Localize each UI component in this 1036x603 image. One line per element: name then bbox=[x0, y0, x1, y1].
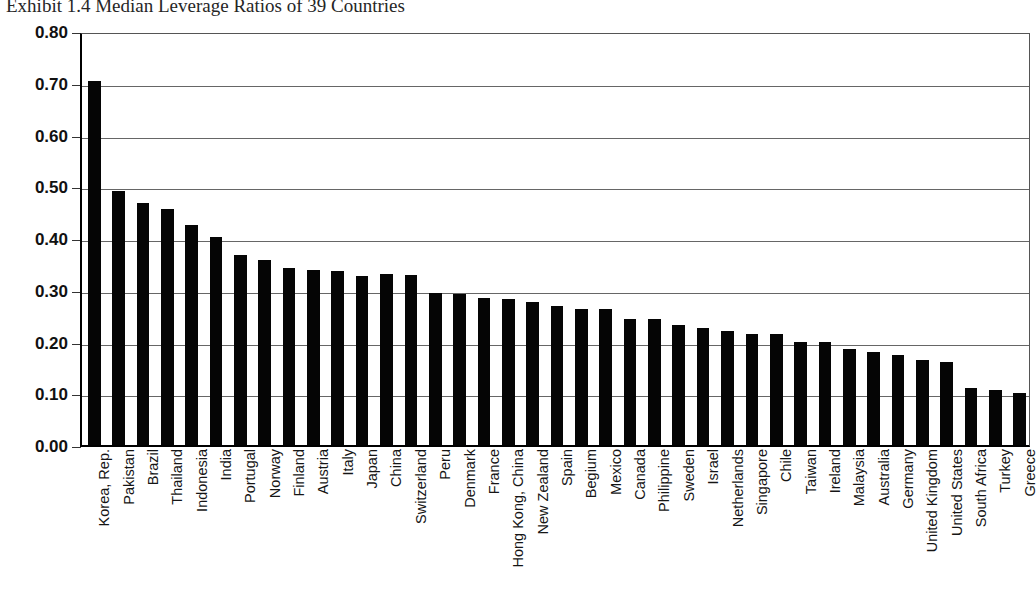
x-axis-category-label: Switzerland bbox=[414, 449, 428, 524]
x-axis-category-label: Netherlands bbox=[731, 449, 745, 527]
bar bbox=[88, 81, 101, 445]
bar bbox=[356, 276, 369, 445]
bar bbox=[867, 352, 880, 445]
x-axis-category-label: Italy bbox=[341, 449, 355, 476]
y-axis-tick-label: 0.80 bbox=[0, 23, 68, 43]
x-axis-category-label: Sweden bbox=[682, 449, 696, 501]
bar bbox=[429, 293, 442, 445]
bar bbox=[1013, 393, 1026, 445]
bar bbox=[940, 362, 953, 445]
x-axis-category-label: Chile bbox=[779, 449, 793, 482]
x-axis-category-label: United Kingdom bbox=[925, 449, 939, 552]
gridline bbox=[82, 189, 1029, 190]
bar bbox=[721, 331, 734, 445]
x-axis-category-label: United States bbox=[950, 449, 964, 536]
x-axis-category-label: Begium bbox=[584, 449, 598, 498]
bar bbox=[185, 225, 198, 445]
gridline bbox=[82, 293, 1029, 294]
gridline bbox=[82, 86, 1029, 87]
x-axis-category-label: Turkey bbox=[998, 449, 1012, 493]
y-axis-tick-label: 0.30 bbox=[0, 282, 68, 302]
x-axis-category-label: Taiwan bbox=[804, 449, 818, 494]
bar bbox=[112, 191, 125, 445]
y-axis-tick-label: 0.50 bbox=[0, 178, 68, 198]
x-axis-category-label: Australia bbox=[877, 449, 891, 505]
x-axis-category-label: Malaysia bbox=[852, 449, 866, 506]
bar bbox=[283, 268, 296, 446]
bar bbox=[380, 274, 393, 445]
x-axis-category-label: Norway bbox=[268, 449, 282, 498]
x-axis-category-label: India bbox=[219, 449, 233, 480]
x-axis-category-label: Brazil bbox=[146, 449, 160, 485]
bar bbox=[770, 334, 783, 445]
y-axis-tick-mark bbox=[72, 447, 81, 448]
bar bbox=[575, 309, 588, 445]
bar bbox=[916, 360, 929, 445]
x-axis-category-label: Canada bbox=[633, 449, 647, 500]
bar-chart: 0.800.700.600.500.400.300.200.100.00 Kor… bbox=[0, 0, 1036, 603]
gridline bbox=[82, 241, 1029, 242]
bar bbox=[599, 309, 612, 445]
x-axis-category-label: Pakistan bbox=[122, 449, 136, 505]
y-axis-tick-label: 0.70 bbox=[0, 75, 68, 95]
x-axis-category-labels: Korea, Rep.PakistanBrazilThailandIndones… bbox=[80, 449, 1030, 603]
bar bbox=[892, 355, 905, 445]
x-axis-category-label: Singapore bbox=[755, 449, 769, 515]
bar bbox=[137, 203, 150, 445]
x-axis-category-label: Philippine bbox=[657, 449, 671, 512]
bar bbox=[210, 237, 223, 445]
bar bbox=[746, 334, 759, 445]
x-axis-category-label: Ireland bbox=[828, 449, 842, 493]
x-axis-category-label: China bbox=[389, 449, 403, 487]
bar bbox=[843, 349, 856, 445]
bar bbox=[161, 209, 174, 445]
x-axis-category-label: Hong Kong, China bbox=[511, 449, 525, 568]
bar bbox=[502, 299, 515, 445]
x-axis-category-label: Spain bbox=[560, 449, 574, 486]
bar bbox=[478, 298, 491, 445]
x-axis-category-label: Mexico bbox=[609, 449, 623, 495]
bar bbox=[989, 390, 1002, 445]
y-axis-tick-label: 0.00 bbox=[0, 437, 68, 457]
y-axis-tick-label: 0.10 bbox=[0, 385, 68, 405]
bar bbox=[965, 388, 978, 445]
bar bbox=[624, 319, 637, 445]
x-axis-category-label: Greece bbox=[1023, 449, 1036, 497]
bar bbox=[648, 319, 661, 445]
bar bbox=[697, 328, 710, 445]
bar bbox=[234, 255, 247, 445]
bar bbox=[819, 342, 832, 445]
bar bbox=[551, 306, 564, 445]
x-axis-category-label: Finland bbox=[292, 449, 306, 497]
x-axis-category-label: Japan bbox=[365, 449, 379, 489]
x-axis-category-label: Peru bbox=[438, 449, 452, 480]
plot-area bbox=[80, 33, 1030, 447]
bar bbox=[672, 325, 685, 445]
x-axis-category-label: Thailand bbox=[170, 449, 184, 505]
y-axis-tick-label: 0.20 bbox=[0, 334, 68, 354]
y-axis-tick-label: 0.60 bbox=[0, 127, 68, 147]
bar bbox=[258, 260, 271, 445]
x-axis-category-label: Israel bbox=[706, 449, 720, 484]
bar bbox=[526, 302, 539, 445]
x-axis-category-label: Korea, Rep. bbox=[97, 449, 111, 526]
x-axis-category-label: New Zealand bbox=[536, 449, 550, 534]
x-axis-category-label: Denmark bbox=[463, 449, 477, 508]
gridline bbox=[82, 138, 1029, 139]
x-axis-category-label: Austria bbox=[316, 449, 330, 494]
bar bbox=[794, 342, 807, 445]
x-axis-category-label: Portugal bbox=[243, 449, 257, 503]
bar bbox=[405, 275, 418, 445]
x-axis-category-label: France bbox=[487, 449, 501, 494]
y-axis-tick-label: 0.40 bbox=[0, 230, 68, 250]
bar bbox=[453, 294, 466, 445]
x-axis-category-label: Indonesia bbox=[195, 449, 209, 512]
bar bbox=[307, 270, 320, 445]
x-axis-category-label: South Africa bbox=[974, 449, 988, 527]
bar bbox=[331, 271, 344, 445]
x-axis-category-label: Germany bbox=[901, 449, 915, 509]
